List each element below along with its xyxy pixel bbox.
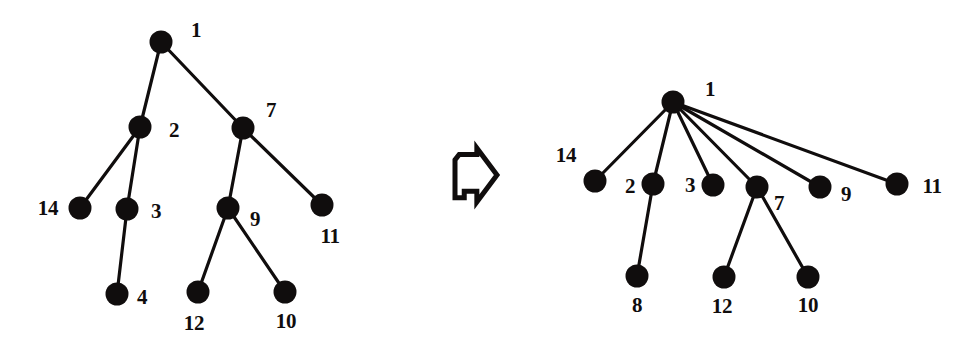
node-label-4: 4 xyxy=(137,287,147,308)
tree-node[interactable] xyxy=(116,198,139,221)
tree-edge xyxy=(637,184,653,276)
node-label-2: 2 xyxy=(169,120,179,141)
node-label-2: 2 xyxy=(625,176,635,197)
node-label-8: 8 xyxy=(632,295,642,316)
tree-edge xyxy=(595,102,673,181)
node-label-1: 1 xyxy=(705,79,715,100)
tree-node[interactable] xyxy=(274,281,297,304)
tree-edge xyxy=(243,128,322,205)
tree-node[interactable] xyxy=(129,116,152,139)
transition-arrow-group xyxy=(455,148,497,202)
tree-edge xyxy=(724,187,757,277)
node-label-3: 3 xyxy=(685,175,695,196)
tree-node[interactable] xyxy=(106,283,129,306)
tree-edge xyxy=(80,127,140,208)
tree-node[interactable] xyxy=(217,197,240,220)
node-label-11: 11 xyxy=(320,226,339,247)
left-tree-group xyxy=(69,31,334,306)
tree-node[interactable] xyxy=(150,31,173,54)
tree-node[interactable] xyxy=(886,173,909,196)
node-label-9: 9 xyxy=(250,209,260,230)
tree-node[interactable] xyxy=(713,266,736,289)
node-label-14: 14 xyxy=(38,198,58,219)
tree-node[interactable] xyxy=(69,197,92,220)
tree-edge xyxy=(117,209,127,294)
tree-node[interactable] xyxy=(797,266,820,289)
tree-transformation-figure: 1271439114121011423791181210 xyxy=(0,0,967,356)
tree-edge xyxy=(198,208,228,292)
tree-node[interactable] xyxy=(642,173,665,196)
tree-node[interactable] xyxy=(626,265,649,288)
node-label-3: 3 xyxy=(151,201,161,222)
tree-node[interactable] xyxy=(746,176,769,199)
tree-node[interactable] xyxy=(662,91,685,114)
node-label-7: 7 xyxy=(774,193,784,214)
tree-node[interactable] xyxy=(702,174,725,197)
node-label-1: 1 xyxy=(191,20,201,41)
tree-node[interactable] xyxy=(809,176,832,199)
tree-node[interactable] xyxy=(311,194,334,217)
tree-node[interactable] xyxy=(187,281,210,304)
tree-edge xyxy=(228,128,243,208)
tree-node[interactable] xyxy=(584,170,607,193)
node-label-9: 9 xyxy=(841,184,851,205)
tree-edge xyxy=(161,42,243,128)
tree-node[interactable] xyxy=(232,117,255,140)
node-label-12: 12 xyxy=(712,296,732,317)
tree-edge xyxy=(140,42,161,127)
block-arrow-right-icon xyxy=(455,148,497,202)
node-label-10: 10 xyxy=(276,311,296,332)
node-label-12: 12 xyxy=(184,313,204,334)
node-label-14: 14 xyxy=(556,145,576,166)
node-label-7: 7 xyxy=(266,100,276,121)
node-label-11: 11 xyxy=(922,176,941,197)
node-label-10: 10 xyxy=(798,295,818,316)
